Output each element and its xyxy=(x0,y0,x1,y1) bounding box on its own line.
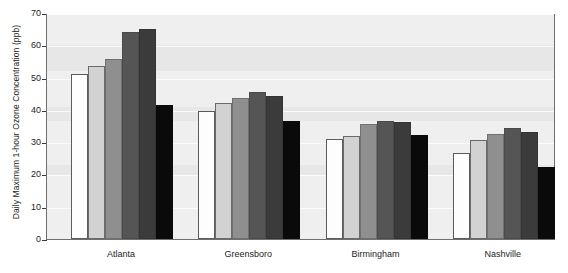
bar-group-greensboro xyxy=(198,15,300,239)
x-axis-label-atlanta: Atlanta xyxy=(71,249,171,259)
y-axis-tick-label: 40 xyxy=(13,105,41,115)
bar-birmingham-5 xyxy=(394,122,411,239)
bar-atlanta-3 xyxy=(105,59,122,239)
bar-atlanta-1 xyxy=(71,74,88,239)
bar-atlanta-5 xyxy=(139,29,156,239)
bar-birmingham-6 xyxy=(411,135,428,239)
y-axis-tick-label: 30 xyxy=(13,137,41,147)
x-axis-label-nashville: Nashville xyxy=(453,249,553,259)
plot-area xyxy=(46,14,555,240)
bar-group-birmingham xyxy=(326,15,428,239)
bar-nashville-4 xyxy=(504,128,521,239)
y-axis-tick-label: 70 xyxy=(13,8,41,18)
bar-greensboro-2 xyxy=(215,103,232,239)
bar-nashville-5 xyxy=(521,132,538,240)
bar-greensboro-6 xyxy=(283,121,300,239)
bar-birmingham-2 xyxy=(343,136,360,239)
y-axis-tick-label: 0 xyxy=(13,234,41,244)
bar-greensboro-3 xyxy=(232,98,249,239)
bar-greensboro-4 xyxy=(249,92,266,239)
y-axis-tick-label: 50 xyxy=(13,73,41,83)
bar-birmingham-4 xyxy=(377,121,394,239)
bar-atlanta-6 xyxy=(156,105,173,239)
bar-greensboro-1 xyxy=(198,111,215,239)
ozone-bar-chart: Daily Maximum 1-hour Ozone Concentration… xyxy=(0,0,568,273)
bar-nashville-1 xyxy=(453,153,470,239)
bar-birmingham-1 xyxy=(326,139,343,239)
bar-nashville-3 xyxy=(487,134,504,239)
bar-birmingham-3 xyxy=(360,124,377,239)
y-axis-tick-label: 20 xyxy=(13,169,41,179)
bar-atlanta-4 xyxy=(122,32,139,239)
bar-greensboro-5 xyxy=(266,96,283,239)
y-axis-tick-label: 60 xyxy=(13,40,41,50)
x-axis-label-birmingham: Birmingham xyxy=(326,249,426,259)
y-axis-tick xyxy=(42,240,47,241)
bar-atlanta-2 xyxy=(88,66,105,239)
bar-nashville-6 xyxy=(538,167,555,239)
bar-group-nashville xyxy=(453,15,555,239)
bar-group-atlanta xyxy=(71,15,173,239)
y-axis-tick-label: 10 xyxy=(13,202,41,212)
x-axis-label-greensboro: Greensboro xyxy=(198,249,298,259)
bar-nashville-2 xyxy=(470,140,487,239)
